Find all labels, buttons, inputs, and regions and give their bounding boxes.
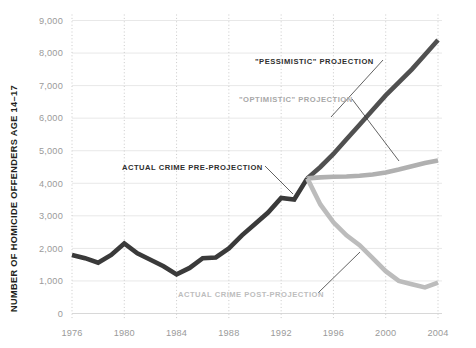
y-axis-tick-labels: 01,0002,0003,0004,0005,0006,0007,0008,00…	[39, 16, 63, 319]
x-axis-tick-label: 1992	[271, 328, 292, 338]
x-axis-tick-label: 1976	[61, 328, 82, 338]
y-axis-tick-label: 9,000	[39, 16, 63, 26]
x-axis-tick-label: 1984	[166, 328, 187, 338]
x-axis-tick-label: 2004	[427, 328, 448, 338]
y-axis-tick-label: 8,000	[39, 48, 63, 58]
chart-canvas: 01,0002,0003,0004,0005,0006,0007,0008,00…	[0, 0, 476, 348]
y-axis-title: NUMBER OF HOMICIDE OFFENDERS AGE 14–17	[9, 85, 19, 312]
y-axis-tick-label: 6,000	[39, 113, 63, 123]
series-line	[307, 178, 438, 287]
homicide-offenders-chart: 01,0002,0003,0004,0005,0006,0007,0008,00…	[0, 0, 476, 348]
annotation-label: ACTUAL CRIME PRE-PROJECTION	[122, 163, 263, 172]
x-axis-tick-label: 1996	[323, 328, 344, 338]
y-axis-tick-label: 3,000	[39, 211, 63, 221]
annotation-leader-line	[265, 166, 293, 194]
annotation-label: "OPTIMISTIC" PROJECTION	[239, 95, 353, 104]
y-axis-tick-label: 5,000	[39, 146, 63, 156]
y-axis-tick-label: 2,000	[39, 244, 63, 254]
x-axis-tick-label: 1988	[218, 328, 239, 338]
annotation-label: "PESSIMISTIC" PROJECTION	[255, 57, 374, 66]
y-axis-tick-label: 4,000	[39, 179, 63, 189]
annotation-label: ACTUAL CRIME POST-PROJECTION	[178, 290, 324, 299]
y-axis-tick-label: 7,000	[39, 81, 63, 91]
y-axis-tick-label: 1,000	[39, 276, 63, 286]
x-axis-tick-label: 2000	[375, 328, 396, 338]
y-axis-tick-label: 0	[58, 309, 63, 319]
series-line	[72, 178, 307, 274]
x-axis-tick-label: 1980	[114, 328, 135, 338]
x-axis-tick-labels: 19761980198419881992199620002004	[61, 328, 448, 338]
annotation-leader-line	[318, 252, 360, 293]
